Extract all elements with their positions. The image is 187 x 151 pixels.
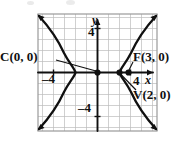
x-axis-label: x <box>145 74 151 86</box>
x-tick-label-positive: 4 <box>133 74 140 87</box>
point-vertex <box>116 69 122 75</box>
x-tick-label-negative: –4 <box>42 72 55 85</box>
point-focus <box>125 69 131 75</box>
label-focus: F(3, 0) <box>133 50 169 63</box>
y-tick-label-positive: 4 <box>88 25 95 38</box>
label-center: C(0, 0) <box>0 50 38 63</box>
hyperbola-figure: C(0, 0) F(3, 0) V(2, 0) x y 4 –4 4 –4 <box>0 0 187 151</box>
label-vertex: V(2, 0) <box>133 88 171 101</box>
point-center <box>94 69 100 75</box>
y-tick-label-negative: –4 <box>78 101 91 114</box>
